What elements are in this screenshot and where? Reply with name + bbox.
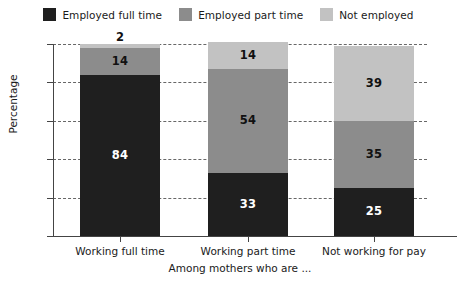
bar-segment-value: 25 [366,206,382,218]
bar-segment-not-employed[interactable]: 14 [208,42,288,69]
x-axis-tick [248,236,249,242]
bar-segment-not-employed[interactable]: 39 [334,46,414,121]
bar-segment-not-employed[interactable]: 2 [80,44,160,48]
bar-working-part-time[interactable]: 33 54 14 [208,44,288,236]
bar-not-working-for-pay[interactable]: 25 35 39 [334,44,414,236]
bar-segment-employed-full-time[interactable]: 33 [208,173,288,236]
legend-item-employed-full-time[interactable]: Employed full time [43,8,162,21]
bar-segment-value: 35 [366,149,382,161]
legend-item-not-employed[interactable]: Not employed [320,8,413,21]
x-axis-title: Among mothers who are ... [53,262,427,274]
bar-segment-employed-part-time[interactable]: 35 [334,121,414,188]
legend-swatch-icon [43,8,56,21]
bar-segment-employed-part-time[interactable]: 54 [208,69,288,173]
x-tick-label-not-working-for-pay: Not working for pay [322,245,426,257]
bar-working-full-time[interactable]: 84 14 2 [80,44,160,236]
legend-swatch-icon [179,8,192,21]
stacked-bar-chart: Employed full time Employed part time No… [0,0,457,283]
bar-segment-value: 14 [112,56,128,68]
legend-item-label: Not employed [339,9,413,21]
x-axis-tick [374,236,375,242]
x-axis-tick [120,236,121,242]
bar-segment-value: 54 [240,115,256,127]
bar-segment-value: 39 [366,78,382,90]
legend-item-employed-part-time[interactable]: Employed part time [179,8,303,21]
bar-segment-value: 84 [112,150,128,162]
plot-area: 84 14 2 33 54 14 25 [53,44,427,236]
bar-segment-value: 2 [80,32,160,44]
legend-swatch-icon [320,8,333,21]
x-tick-label-working-full-time: Working full time [75,245,164,257]
bar-segment-value: 14 [240,50,256,62]
legend-item-label: Employed part time [198,9,303,21]
bar-segment-employed-full-time[interactable]: 84 [80,75,160,236]
x-axis-line [53,236,457,237]
x-tick-label-working-part-time: Working part time [201,245,296,257]
bar-segment-employed-part-time[interactable]: 14 [80,48,160,75]
y-axis-title: Percentage [7,44,19,164]
legend-item-label: Employed full time [62,9,162,21]
bar-segment-employed-full-time[interactable]: 25 [334,188,414,236]
chart-legend: Employed full time Employed part time No… [0,8,457,21]
bar-segment-value: 33 [240,199,256,211]
